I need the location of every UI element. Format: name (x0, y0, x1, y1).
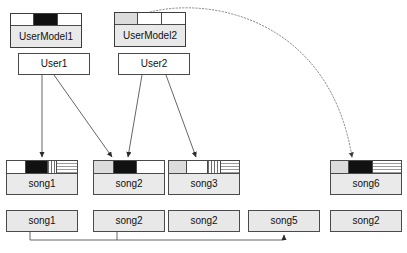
user-box-1[interactable]: User1 (18, 53, 90, 75)
songmodel-song6-cellbar (331, 161, 401, 174)
user-1-label: User1 (19, 54, 89, 74)
edge-user2-to-song2 (128, 75, 142, 157)
usermodel-box-1[interactable]: UserModel1 (10, 13, 82, 48)
usermodel-2-cell-2 (162, 13, 185, 24)
usermodel-1-cell-0 (11, 14, 34, 25)
usermodel-2-cellbar (115, 13, 185, 25)
songmodel-song2-cell-0 (94, 161, 114, 173)
song-box-4[interactable]: song5 (248, 210, 320, 232)
songmodel-song3-cell-3 (221, 161, 239, 173)
songmodel-song1-label: song1 (7, 174, 77, 194)
songmodel-song1-cell-3 (57, 161, 77, 173)
usermodel-2-label: UserModel2 (115, 25, 185, 46)
songmodel-song3-cell-1 (187, 161, 208, 173)
song-box-5-label: song2 (331, 211, 401, 231)
songmodel-song3-label: song3 (169, 174, 239, 194)
diagram-canvas: UserModel1 UserModel2 User1 User2 song1 (0, 0, 407, 253)
song-box-2[interactable]: song2 (93, 210, 165, 232)
songmodel-box-song6[interactable]: song6 (330, 160, 402, 195)
songmodel-song3-cell-0 (169, 161, 187, 173)
edge-song1-to-bus (30, 232, 284, 240)
songmodel-song1-cell-2 (48, 161, 57, 173)
user-2-label: User2 (119, 54, 189, 74)
edge-user2-to-song3 (166, 75, 196, 157)
song-box-4-label: song5 (249, 211, 319, 231)
edge-user1-to-song2 (54, 75, 112, 157)
songmodel-song6-label: song6 (331, 174, 401, 194)
songmodel-box-song2[interactable]: song2 (93, 160, 165, 195)
songmodel-song6-cell-1 (349, 161, 373, 173)
songmodel-song2-label: song2 (94, 174, 164, 194)
songmodel-box-song3[interactable]: song3 (168, 160, 240, 195)
songmodel-song1-cell-0 (7, 161, 26, 173)
song-box-1[interactable]: song1 (6, 210, 78, 232)
usermodel-1-label: UserModel1 (11, 26, 81, 47)
songmodel-song2-cellbar (94, 161, 164, 174)
songmodel-song2-cell-2 (137, 161, 164, 173)
songmodel-box-song1[interactable]: song1 (6, 160, 78, 195)
song-box-3[interactable]: song2 (168, 210, 240, 232)
usermodel-2-cell-1 (138, 13, 161, 24)
songmodel-song1-cell-1 (26, 161, 48, 173)
song-box-3-label: song2 (169, 211, 239, 231)
songmodel-song3-cell-2 (208, 161, 221, 173)
songmodel-song1-cellbar (7, 161, 77, 174)
song-box-5[interactable]: song2 (330, 210, 402, 232)
user-box-2[interactable]: User2 (118, 53, 190, 75)
usermodel-1-cell-2 (58, 14, 81, 25)
usermodel-1-cell-1 (34, 14, 57, 25)
usermodel-box-2[interactable]: UserModel2 (114, 12, 186, 47)
usermodel-1-cellbar (11, 14, 81, 26)
songmodel-song3-cellbar (169, 161, 239, 174)
usermodel-2-cell-0 (115, 13, 138, 24)
songmodel-song6-cell-0 (331, 161, 349, 173)
songmodel-song6-cell-2 (373, 161, 401, 173)
song-box-1-label: song1 (7, 211, 77, 231)
songmodel-song2-cell-1 (114, 161, 137, 173)
song-box-2-label: song2 (94, 211, 164, 231)
